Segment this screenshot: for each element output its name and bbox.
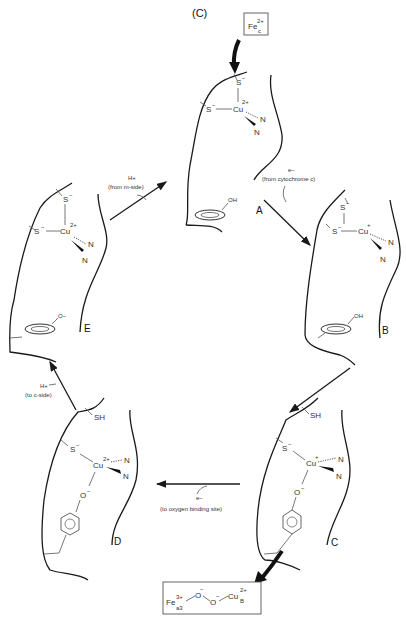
note-a-to-b: (from cytochrome c) (262, 176, 315, 182)
state-a-label: A (256, 205, 263, 216)
cu-a-charge: 2+ (242, 99, 249, 105)
svg-text:3+: 3+ (176, 594, 183, 600)
svg-text:N: N (380, 255, 386, 264)
svg-text:2+: 2+ (240, 587, 247, 593)
note-e-to-a: (from m-side) (108, 184, 144, 190)
svg-text:SH: SH (94, 413, 105, 422)
svg-text:−: − (346, 200, 350, 206)
arrow-b-to-c (290, 368, 350, 412)
electron-exit-arrow (262, 551, 282, 578)
figure-title: (C) (192, 7, 207, 19)
svg-text:−: − (76, 442, 80, 448)
svg-text:S: S (63, 195, 68, 204)
state-e-label: E (84, 323, 91, 334)
svg-text:O: O (210, 598, 216, 607)
cu-e: Cu (60, 227, 70, 236)
svg-text:S: S (34, 227, 39, 236)
oxygen-binding-site-box: Fe 3+ a3 O − O − Cu 2+ B (163, 582, 261, 614)
svg-text:−: − (69, 192, 73, 198)
reaction-cycle-diagram: (C) Fe 2+ c S − S − Cu 2+ N N OH A e− (f… (0, 0, 406, 622)
svg-text:H+: H+ (128, 175, 136, 181)
svg-text:Fe: Fe (166, 598, 176, 607)
arrow-a-to-b (264, 200, 310, 245)
svg-text:N: N (254, 128, 260, 137)
svg-text:−: − (41, 224, 45, 230)
fe-c-box: Fe 2+ c (244, 13, 268, 35)
state-c-label: C (331, 537, 338, 548)
svg-text:−: − (212, 102, 216, 108)
svg-text:−: − (216, 593, 220, 599)
arrow-d-to-e (50, 362, 76, 410)
svg-text:B: B (240, 598, 244, 604)
cu-a: Cu (233, 105, 243, 114)
cu-c-charge: + (315, 454, 319, 460)
svg-text:Cu: Cu (228, 592, 238, 601)
svg-text:e−: e− (196, 495, 203, 501)
svg-text:−: − (288, 441, 292, 447)
cu-b-charge: + (367, 222, 371, 228)
cu-b: Cu (358, 227, 368, 236)
svg-text:S: S (236, 78, 241, 87)
svg-text:N: N (88, 240, 94, 249)
diagram-canvas: (C) Fe 2+ c S − S − Cu 2+ N N OH A e− (f… (0, 0, 406, 622)
svg-text:N: N (336, 472, 342, 481)
svg-text:N: N (388, 238, 394, 247)
fe-c-subscript: c (258, 28, 261, 34)
svg-text:a3: a3 (176, 605, 183, 611)
svg-text:e−: e− (288, 167, 295, 173)
cu-c: Cu (306, 459, 316, 468)
state-b: S − S − Cu + N N OH B (305, 190, 400, 365)
svg-text:−: − (338, 224, 342, 230)
cu-e-charge: 2+ (70, 222, 77, 228)
state-d-label: D (114, 536, 121, 547)
cu-d-charge: 2+ (103, 456, 110, 462)
svg-text:O: O (294, 488, 300, 497)
phenol-e: O− (58, 313, 67, 319)
svg-text:N: N (82, 256, 88, 265)
state-d: SH S − Cu 2+ N N O − D (42, 398, 138, 580)
cu-d: Cu (93, 461, 103, 470)
state-c: SH S − Cu + N N O − C (257, 398, 350, 570)
svg-text:−: − (200, 586, 204, 592)
svg-text:N: N (124, 456, 130, 465)
svg-text:N: N (260, 115, 266, 124)
svg-text:N: N (338, 455, 344, 464)
state-e: S − S − Cu 2+ N N O− E (10, 183, 107, 362)
svg-text:S: S (206, 105, 211, 114)
svg-text:S: S (332, 227, 337, 236)
svg-text:SH: SH (310, 411, 321, 420)
state-b-label: B (382, 325, 389, 336)
svg-text:S: S (282, 444, 287, 453)
svg-text:S: S (70, 445, 75, 454)
phenol-b: OH (354, 313, 363, 319)
svg-text:N: N (123, 472, 129, 481)
svg-text:−: − (87, 488, 91, 494)
note-d-to-e: (to c-side) (25, 392, 52, 398)
svg-text:O: O (195, 591, 201, 600)
svg-text:H+: H+ (40, 383, 48, 389)
note-c-to-d: (to oxygen binding site) (160, 506, 222, 512)
svg-text:S: S (340, 203, 345, 212)
svg-text:−: − (301, 485, 305, 491)
fe-c-charge: 2+ (257, 18, 264, 24)
state-a: S − S − Cu 2+ N N OH A (186, 72, 282, 232)
phenol-a: OH (228, 197, 237, 203)
svg-text:O: O (80, 491, 86, 500)
svg-text:−: − (242, 75, 246, 81)
